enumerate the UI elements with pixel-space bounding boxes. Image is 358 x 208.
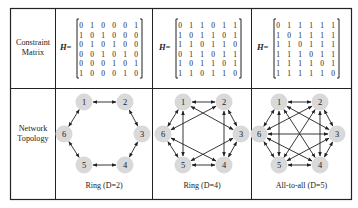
- row-label-line2: Matrix: [10, 48, 56, 58]
- matrix-cell: 1: [189, 69, 193, 78]
- matrix-cell: 0: [134, 40, 138, 49]
- caption-ring-d4: Ring (D=4): [153, 181, 251, 190]
- topology-graph-1: 123456: [56, 94, 151, 174]
- matrix-cell: 0: [200, 69, 204, 78]
- matrix-cell: 0: [233, 40, 237, 49]
- matrix-cell: 0: [79, 50, 83, 59]
- matrix-cell: 1: [211, 40, 215, 49]
- node-label: 3: [140, 129, 144, 139]
- figure-table: H=010001101000010100001010000101100010H=…: [0, 0, 358, 208]
- matrix-cell: 1: [123, 50, 127, 59]
- node-2: 2: [216, 94, 233, 111]
- edge-2-3: [324, 110, 333, 126]
- edge-5-6: [69, 142, 79, 158]
- edge-6-1: [264, 110, 274, 127]
- edge-5-6: [264, 142, 274, 158]
- matrix-cell: 1: [101, 50, 105, 59]
- matrix-cell: 0: [101, 69, 105, 78]
- matrix-cell: 1: [298, 69, 302, 78]
- matrix-cell: 1: [79, 31, 83, 40]
- node-4: 4: [216, 157, 233, 174]
- edges: [264, 102, 333, 165]
- matrix-cell: 0: [123, 21, 127, 30]
- matrix-cell: 1: [90, 21, 94, 30]
- node-6: 6: [155, 126, 172, 143]
- matrix-cell: 0: [276, 21, 280, 30]
- matrix-cell: 1: [112, 40, 116, 49]
- matrix-cell: 1: [287, 50, 291, 59]
- matrix-cell: 0: [112, 31, 116, 40]
- row-label-network-topology: Network Topology: [10, 124, 56, 144]
- matrix-cell: 1: [331, 40, 335, 49]
- edge-3-4: [228, 142, 236, 157]
- node-label: 6: [62, 129, 66, 139]
- matrix-cell: 1: [309, 69, 313, 78]
- matrix-cell: 1: [178, 59, 182, 68]
- matrix-cell: 0: [331, 69, 335, 78]
- matrix-cell: 0: [79, 40, 83, 49]
- node-6: 6: [56, 126, 73, 143]
- matrix-cell: 0: [211, 21, 215, 30]
- matrix-cell: 1: [320, 69, 324, 78]
- node-label: 6: [257, 129, 261, 139]
- row-label-constraint-matrix: Constraint Matrix: [10, 38, 56, 58]
- matrix-cell: 1: [211, 31, 215, 40]
- matrix-cell: 1: [189, 40, 193, 49]
- matrix-cell: 1: [320, 21, 324, 30]
- matrix-cell: 0: [90, 69, 94, 78]
- matrix-cell: 0: [233, 69, 237, 78]
- matrix-cell: 1: [287, 40, 291, 49]
- node-2: 2: [117, 94, 134, 111]
- matrix-cell: 0: [189, 59, 193, 68]
- matrix-cell: 1: [178, 69, 182, 78]
- topology-graph-3: 123456: [251, 94, 346, 174]
- matrix-cell: 1: [134, 21, 138, 30]
- matrix-cell: 1: [222, 21, 226, 30]
- matrix-cell: 1: [276, 50, 280, 59]
- matrix-cell: 1: [101, 31, 105, 40]
- constraint-matrix-3: H=011111101111110111111011111101111110: [256, 19, 339, 78]
- row-label-line2: Topology: [10, 134, 56, 144]
- matrix-cell: 1: [331, 50, 335, 59]
- matrix-cell: 1: [211, 59, 215, 68]
- matrix-cell: 1: [276, 69, 280, 78]
- matrix-cell: 0: [112, 21, 116, 30]
- edge-6-1: [69, 110, 79, 127]
- matrix-cell: 1: [90, 40, 94, 49]
- node-label: 2: [222, 97, 226, 107]
- node-1: 1: [271, 94, 288, 111]
- row-label-line1: Network: [10, 124, 56, 134]
- matrix-cell: 1: [320, 40, 324, 49]
- matrix-cell: 1: [200, 31, 204, 40]
- matrix-cell: 1: [222, 40, 226, 49]
- matrix-cell: 0: [309, 50, 313, 59]
- matrix-cell: 1: [276, 40, 280, 49]
- matrix-cell: 1: [222, 69, 226, 78]
- network-topologies: 123456123456123456: [56, 94, 346, 174]
- matrix-cell: 1: [276, 31, 280, 40]
- matrix-cell: 0: [101, 40, 105, 49]
- constraint-matrix-2: H=011011101101110110011011101101110110: [158, 19, 241, 78]
- matrix-cell: 1: [331, 21, 335, 30]
- node-label: 2: [123, 97, 127, 107]
- matrix-cell: 1: [178, 31, 182, 40]
- matrix-cell: 0: [178, 21, 182, 30]
- edge-3-4: [324, 142, 332, 157]
- matrix-cell: 1: [309, 40, 313, 49]
- edges: [69, 102, 138, 165]
- matrix-cell: 1: [233, 31, 237, 40]
- row-label-line1: Constraint: [10, 38, 56, 48]
- node-5: 5: [271, 157, 288, 174]
- matrix-cell: 0: [123, 59, 127, 68]
- node-3: 3: [329, 126, 346, 143]
- matrix-cell: 1: [178, 40, 182, 49]
- node-label: 5: [181, 160, 185, 170]
- matrix-cell: 1: [189, 21, 193, 30]
- matrix-cell: 1: [287, 59, 291, 68]
- matrix-cell: 1: [298, 21, 302, 30]
- node-1: 1: [76, 94, 93, 111]
- matrix-cell: 1: [222, 50, 226, 59]
- topology-graph-2: 123456: [155, 94, 250, 174]
- matrix-cell: 0: [134, 69, 138, 78]
- matrix-cell: 1: [233, 21, 237, 30]
